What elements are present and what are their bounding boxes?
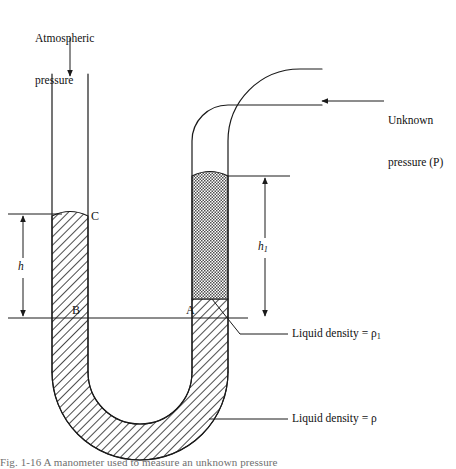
liquid-density-rho-symbol: ρ: [371, 412, 377, 424]
liquid-density-rho1-text: Liquid density =: [292, 327, 371, 339]
point-a-label: A: [186, 303, 195, 318]
liquid-density-rho1-label: Liquid density = ρ1: [292, 326, 381, 342]
h1-subscript: 1: [264, 245, 268, 254]
h-dimension-label: h: [18, 259, 24, 273]
atmospheric-pressure-line-1: Atmospheric: [35, 31, 94, 45]
point-b-label: B: [72, 303, 80, 318]
atmospheric-pressure-line-2: pressure: [35, 73, 94, 87]
h1-dimension-label: h1: [258, 239, 268, 255]
unknown-pressure-line-1: Unknown: [388, 113, 443, 127]
atmospheric-pressure-label: Atmospheric pressure: [35, 3, 94, 115]
liquid-density-rho-label: Liquid density = ρ: [292, 411, 377, 425]
point-c-label: C: [91, 209, 99, 224]
liquid-density-rho-text: Liquid density =: [292, 412, 371, 424]
unknown-pressure-line-2: pressure (P): [388, 155, 443, 169]
unknown-pressure-label: Unknown pressure (P): [388, 85, 443, 197]
manometer-figure: Atmospheric pressure Unknown pressure (P…: [0, 0, 456, 469]
liquid-rho1-body: [192, 172, 228, 300]
liquid-density-rho1-subscript: 1: [377, 332, 381, 341]
liquid-rho1-region: [192, 172, 228, 300]
figure-caption-partial: Fig. 1-16 A manometer used to measure an…: [0, 456, 456, 469]
